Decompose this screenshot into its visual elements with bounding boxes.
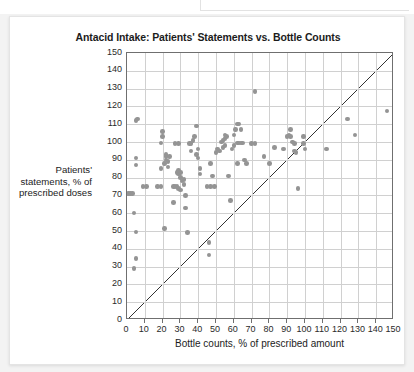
scatter-plot-area	[126, 52, 393, 319]
scatter-point	[182, 177, 187, 182]
scatter-point	[353, 133, 358, 138]
x-tick-mark	[179, 319, 180, 323]
scatter-point	[301, 134, 306, 139]
y-tick-label: 10	[98, 297, 122, 306]
y-tick-label: 20	[98, 279, 122, 288]
scatter-point	[132, 211, 137, 216]
scatter-point	[135, 117, 140, 122]
scatter-point	[262, 154, 267, 159]
scatter-point	[192, 134, 197, 139]
gridline-vertical	[305, 53, 306, 318]
y-tick-label: 40	[98, 243, 122, 252]
scatter-point	[182, 182, 187, 187]
scatter-point	[224, 134, 229, 139]
y-tick-label: 140	[98, 65, 122, 74]
scatter-point	[345, 117, 350, 122]
x-tick-mark	[286, 319, 287, 323]
scatter-point	[223, 143, 228, 148]
scatter-point	[162, 226, 167, 231]
scatter-point	[301, 141, 306, 146]
x-tick-mark	[215, 319, 216, 323]
scatter-point	[237, 122, 242, 127]
scatter-point	[288, 134, 293, 139]
scatter-point	[171, 200, 176, 205]
scatter-point	[303, 147, 308, 152]
gridline-horizontal	[127, 302, 392, 303]
y-tick-label: 50	[98, 226, 122, 235]
scatter-point	[232, 133, 237, 138]
scatter-point	[189, 149, 194, 154]
scatter-point	[239, 127, 244, 132]
x-tick-mark	[233, 319, 234, 323]
gridline-horizontal	[127, 195, 392, 196]
gridline-horizontal	[127, 178, 392, 179]
x-tick-mark	[304, 319, 305, 323]
scatter-point	[235, 161, 240, 166]
x-tick-mark	[357, 319, 358, 323]
gridline-horizontal	[127, 142, 392, 143]
x-axis-title: Bottle counts, % of prescribed amount	[126, 338, 393, 349]
y-tick-label: 60	[98, 208, 122, 217]
gridline-vertical	[287, 53, 288, 318]
scatter-point	[185, 230, 190, 235]
gridline-vertical	[234, 53, 235, 318]
gridline-horizontal	[127, 106, 392, 107]
y-tick-label: 120	[98, 101, 122, 110]
gridline-vertical	[358, 53, 359, 318]
gridline-horizontal	[127, 89, 392, 90]
y-tick-label: 70	[98, 190, 122, 199]
x-tick-mark	[197, 319, 198, 323]
reference-line-identity	[127, 53, 393, 319]
scatter-point	[281, 147, 286, 152]
gridline-vertical	[341, 53, 342, 318]
scatter-point	[198, 166, 203, 171]
y-axis-title-line-1: Patients'	[12, 164, 92, 176]
scatter-point	[210, 174, 215, 179]
gridline-horizontal	[127, 267, 392, 268]
scatter-point	[288, 127, 293, 132]
scatter-point	[166, 165, 171, 170]
figure-card: Antacid Intake: Patients' Statements vs.…	[9, 16, 405, 365]
gridline-horizontal	[127, 124, 392, 125]
scatter-point	[294, 150, 299, 155]
y-tick-label: 100	[98, 137, 122, 146]
scatter-point	[132, 266, 137, 271]
x-axis-tick-labels: 0102030405060708090100110120130140150	[126, 319, 393, 339]
gridline-horizontal	[127, 231, 392, 232]
gridline-vertical	[376, 53, 377, 318]
scatter-point	[233, 127, 238, 132]
scatter-point	[166, 159, 171, 164]
scatter-point	[292, 141, 297, 146]
x-tick-label: 150	[378, 325, 408, 334]
scatter-point	[178, 188, 183, 193]
page-root: Antacid Intake: Patients' Statements vs.…	[0, 0, 414, 372]
gridline-horizontal	[127, 249, 392, 250]
y-tick-label: 130	[98, 83, 122, 92]
gridline-horizontal	[127, 71, 392, 72]
y-tick-label: 30	[98, 261, 122, 270]
scatter-point	[267, 161, 272, 166]
scatter-point	[160, 129, 165, 134]
x-tick-mark	[268, 319, 269, 323]
scatter-point	[296, 186, 301, 191]
scatter-point	[134, 256, 139, 261]
y-axis-title-line-3: prescribed doses	[12, 187, 92, 199]
gridline-horizontal	[127, 284, 392, 285]
scatter-point	[240, 141, 245, 146]
scatter-point	[272, 145, 277, 150]
scatter-point	[253, 141, 258, 146]
x-tick-mark	[251, 319, 252, 323]
scatter-point	[176, 141, 181, 146]
scatter-point	[178, 170, 183, 175]
scatter-point	[212, 184, 217, 189]
scatter-point	[196, 147, 201, 152]
cut-off-panel	[200, 0, 409, 11]
scatter-point	[159, 166, 164, 171]
scatter-point	[183, 193, 188, 198]
scatter-point	[198, 172, 203, 177]
scatter-point	[207, 240, 212, 245]
y-axis-tick-labels: 0102030405060708090100110120130140150	[94, 52, 122, 319]
scatter-point	[183, 206, 188, 211]
scatter-point	[253, 89, 258, 94]
scatter-point	[134, 230, 139, 235]
